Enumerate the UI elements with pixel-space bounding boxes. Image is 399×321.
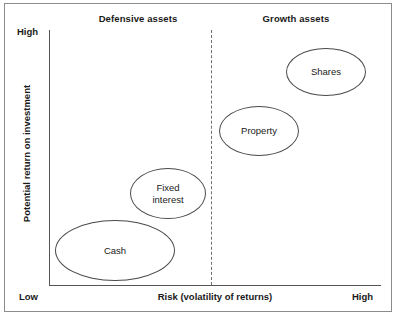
asset-bubble-cash: Cash [55, 220, 175, 281]
y-axis-line [49, 30, 50, 286]
x-axis-low-label: Low [19, 291, 38, 302]
y-axis-high-label: High [17, 26, 38, 37]
asset-bubble-fixed-interest: Fixed interest [130, 168, 206, 219]
asset-bubble-label-cash: Cash [104, 245, 126, 257]
asset-bubble-property: Property [219, 106, 299, 156]
region-divider-dashed-line [211, 30, 212, 285]
asset-bubble-shares: Shares [286, 48, 366, 96]
asset-bubble-label-property: Property [241, 125, 277, 137]
asset-bubble-label-fixed-interest: Fixed interest [152, 182, 183, 206]
x-axis-line [49, 285, 381, 286]
risk-return-chart: Defensive assets Growth assets High Low … [0, 0, 399, 321]
region-heading-defensive: Defensive assets [65, 13, 211, 24]
region-heading-growth: Growth assets [212, 13, 380, 24]
y-axis-title: Potential return on investment [21, 54, 32, 254]
x-axis-title: Risk (volatility of returns) [49, 291, 381, 302]
asset-bubble-label-shares: Shares [311, 66, 341, 78]
